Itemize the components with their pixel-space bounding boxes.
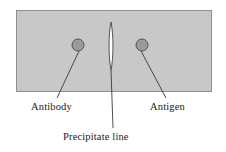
antibody-well	[72, 39, 84, 51]
precipitate-line-label: Precipitate line	[63, 131, 129, 143]
precipitate-line-lens	[109, 22, 113, 70]
antigen-well	[136, 39, 148, 51]
antibody-label: Antibody	[31, 101, 72, 113]
antigen-label: Antigen	[150, 101, 185, 113]
agar-gel-plate	[17, 11, 212, 92]
immunodiffusion-diagram: Antibody Antigen Precipitate line	[0, 0, 226, 152]
diagram-canvas	[0, 0, 226, 152]
